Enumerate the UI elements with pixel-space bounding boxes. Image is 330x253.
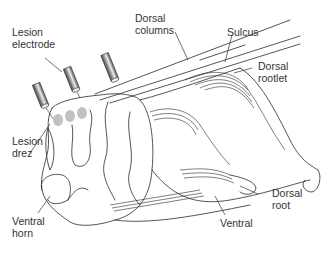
leader-lines — [30, 32, 258, 215]
label-ventral: Ventral — [220, 217, 253, 229]
label-dorsal-columns: Dorsal columns — [135, 12, 174, 36]
label-dorsal-rootlet: Dorsal rootlet — [258, 60, 288, 84]
ventral-root-fibers — [110, 169, 256, 211]
dorsal-rootlet-fibers — [150, 72, 285, 165]
electrode-1 — [32, 82, 49, 109]
label-lesion-electrode: Lesion electrode — [12, 26, 55, 50]
cord-cross-section — [41, 94, 153, 226]
label-lesion-drez: Lesion drez — [12, 135, 43, 159]
label-sulcus: Sulcus — [227, 26, 259, 38]
label-dorsal-root: Dorsal root — [272, 187, 302, 211]
label-ventral-horn: Ventral horn — [12, 215, 45, 239]
electrode-3 — [101, 53, 120, 84]
spinal-cord-diagram: Lesion electrode Dorsal columns Sulcus D… — [0, 0, 330, 253]
lesion-spots — [53, 107, 87, 126]
electrode-2 — [63, 66, 80, 93]
